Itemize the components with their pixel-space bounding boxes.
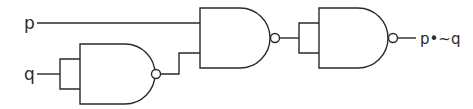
- wire-g1-to-g2: [161, 53, 201, 74]
- wire-q-split: [60, 59, 80, 89]
- nand-gate-3: [319, 8, 388, 68]
- nand-circuit-diagram: p q p•~q: [0, 0, 473, 109]
- input-label-p: p: [24, 13, 35, 33]
- inverter-bubble-2: [271, 34, 280, 43]
- nand-gate-2: [200, 8, 270, 68]
- inverter-bubble-3: [389, 34, 398, 43]
- wire-g2-split: [299, 23, 319, 53]
- output-label: p•~q: [420, 30, 460, 48]
- nand-gate-1: [80, 44, 155, 104]
- inverter-bubble-1: [152, 70, 161, 79]
- input-label-q: q: [24, 64, 35, 84]
